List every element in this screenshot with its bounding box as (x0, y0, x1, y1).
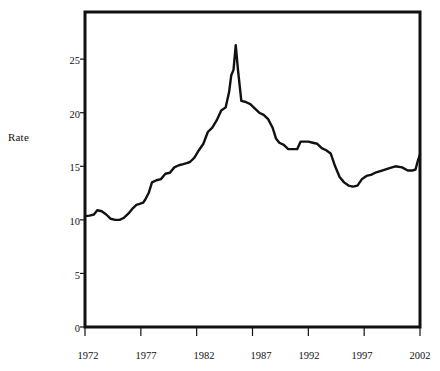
tick-marks (80, 59, 420, 336)
axis-frame (85, 12, 420, 327)
line-chart: Rate 25 20 15 10 5 0 1972 1977 1982 1987… (0, 0, 440, 371)
data-line-rate (85, 45, 420, 220)
plot-border (85, 12, 420, 327)
plot-canvas (0, 0, 440, 371)
